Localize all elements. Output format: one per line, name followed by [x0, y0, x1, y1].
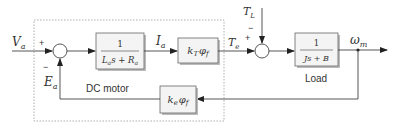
block-diagram: Va + − 1 Las + Ra Ia kTφf Te + TL − 1 Js… — [0, 0, 393, 130]
electric-torque-label: Te — [228, 36, 240, 51]
armature-transfer-block: 1 Las + Ra — [96, 33, 146, 71]
load-transfer-block: 1 Js + B — [295, 33, 340, 68]
load-label: Load — [305, 73, 327, 84]
armature-current-label: Ia — [155, 34, 166, 50]
load-torque-label: TL — [243, 5, 255, 20]
sum2-minus-sign: − — [248, 23, 253, 33]
input-voltage-label: Va — [12, 35, 26, 51]
sum2-plus-sign: + — [245, 33, 250, 43]
svg-text:Las + Ra: Las + Ra — [101, 55, 139, 66]
torque-constant-block: kTφf — [178, 38, 220, 65]
svg-text:1: 1 — [314, 38, 319, 48]
emf-constant-block: keφf — [160, 86, 198, 115]
summing-junction-torque — [255, 44, 269, 58]
back-emf-label: Ea — [43, 75, 58, 91]
svg-text:1: 1 — [117, 39, 123, 49]
dc-motor-label: DC motor — [86, 83, 129, 94]
summing-junction-armature — [53, 44, 67, 58]
motor-speed-label: ωm — [350, 33, 368, 49]
sum1-plus-sign: + — [39, 38, 44, 48]
sum1-minus-sign: − — [43, 62, 48, 72]
svg-text:Js + B: Js + B — [302, 54, 329, 63]
